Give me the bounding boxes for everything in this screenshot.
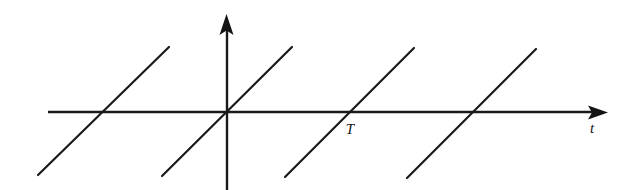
plot-canvas: T t	[0, 0, 629, 190]
t-axis-label: t	[590, 120, 595, 136]
period-label-T: T	[346, 121, 356, 137]
sawtooth-figure: T t	[0, 0, 629, 190]
sawtooth-segment-4	[407, 49, 536, 178]
